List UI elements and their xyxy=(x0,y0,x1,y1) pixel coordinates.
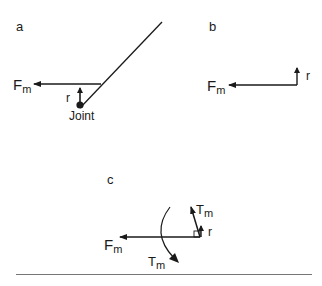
force-label-fm-b: Fm xyxy=(207,78,225,96)
force-label-fm-c: Fm xyxy=(104,237,122,255)
torque-rotation-label: Tm xyxy=(148,255,165,271)
radius-label-c: r xyxy=(208,226,212,238)
limb-segment xyxy=(80,22,162,108)
panel-b-figure xyxy=(229,68,297,85)
panel-b-label: b xyxy=(209,20,216,33)
radius-label-a: r xyxy=(66,92,70,104)
panel-a-figure xyxy=(34,22,162,109)
panel-c-label: c xyxy=(107,173,114,186)
panel-a-label: a xyxy=(16,20,23,33)
diagram-canvas xyxy=(0,0,322,286)
bottom-rule xyxy=(16,274,312,275)
joint-dot xyxy=(76,101,83,108)
joint-label: Joint xyxy=(69,110,94,122)
torque-vector-label: Tm xyxy=(196,203,213,219)
radius-label-b: r xyxy=(306,70,310,82)
rotation-arc-arrow xyxy=(161,207,174,258)
force-label-fm-a: Fm xyxy=(13,77,31,95)
